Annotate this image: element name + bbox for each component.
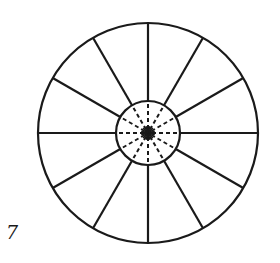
inner-dashed-spoke xyxy=(133,136,147,159)
outer-spoke xyxy=(53,149,121,188)
inner-dashed-spoke xyxy=(150,136,164,159)
figure-number-label: 7 xyxy=(6,222,18,242)
spoke-wheel-diagram xyxy=(0,0,280,263)
inner-dashed-spoke xyxy=(151,118,174,132)
outer-spoke xyxy=(164,161,203,229)
inner-dashed-spoke xyxy=(150,106,164,129)
outer-spoke xyxy=(93,38,132,106)
inner-dashed-spoke xyxy=(151,135,174,149)
inner-dashed-spoke xyxy=(121,135,144,149)
outer-spoke xyxy=(176,78,244,117)
outer-spoke xyxy=(53,78,121,117)
outer-spoke xyxy=(93,161,132,229)
outer-spoke xyxy=(176,149,244,188)
inner-dashed-spoke xyxy=(133,106,147,129)
inner-dashed-spoke xyxy=(121,118,144,132)
outer-spoke xyxy=(164,38,203,106)
